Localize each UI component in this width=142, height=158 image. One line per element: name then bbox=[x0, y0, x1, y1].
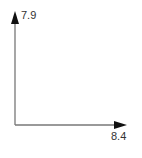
x-axis-arrowhead-icon bbox=[114, 121, 127, 129]
y-axis-arrowhead-icon bbox=[11, 11, 19, 24]
x-axis-label: 8.4 bbox=[111, 131, 126, 142]
y-axis-label: 7.9 bbox=[21, 10, 36, 21]
